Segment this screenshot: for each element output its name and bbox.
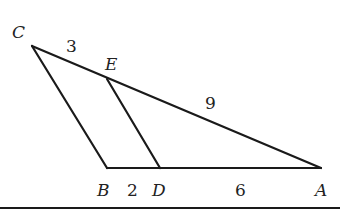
point-label-C: C (12, 22, 25, 42)
length-label-BD: 2 (127, 180, 138, 200)
segment-CA (32, 46, 321, 168)
triangle-diagram: C E B D A 3 9 2 6 (0, 0, 340, 210)
point-label-B: B (96, 180, 110, 200)
segment-CB (32, 46, 107, 168)
length-label-EA: 9 (205, 93, 216, 113)
length-label-CE: 3 (66, 36, 77, 56)
point-label-D: D (151, 180, 166, 200)
length-label-DA: 6 (235, 180, 246, 200)
point-label-E: E (104, 54, 118, 74)
point-label-A: A (313, 180, 327, 200)
segment-ED (107, 79, 160, 168)
